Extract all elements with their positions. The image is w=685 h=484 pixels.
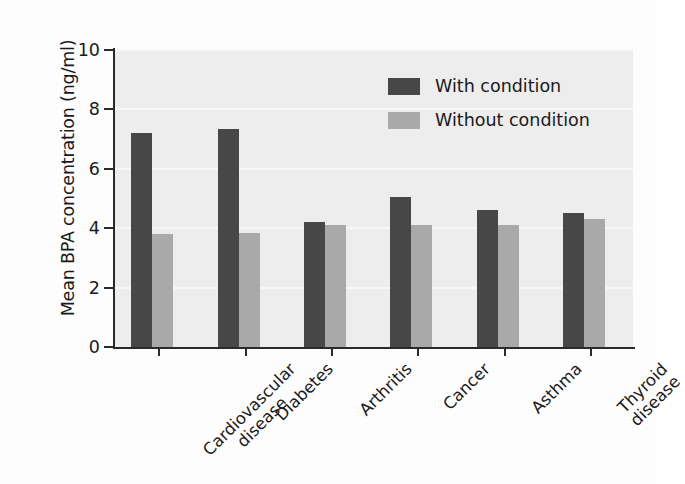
y-axis-tick-label: 10: [60, 40, 100, 60]
gridline: [115, 227, 633, 229]
bar: [325, 225, 346, 347]
x-axis-tick-label: Asthma: [528, 360, 586, 418]
x-axis-tick-label: Cardiovasculardisease: [200, 360, 313, 473]
legend-swatch-icon: [388, 112, 420, 129]
bar: [498, 225, 519, 347]
y-axis-tick-label: 4: [60, 218, 100, 238]
chart-legend: With conditionWithout condition: [388, 76, 590, 130]
legend-label: With condition: [435, 76, 561, 96]
y-axis-tick-label: 6: [60, 159, 100, 179]
x-axis-tick-mark: [504, 349, 506, 356]
x-axis-tick-mark: [245, 349, 247, 356]
x-axis-tick-label-line: Asthma: [527, 359, 585, 417]
y-axis-tick-label: 0: [60, 337, 100, 357]
x-axis-line: [113, 347, 635, 349]
bar: [390, 197, 411, 347]
bar: [584, 219, 605, 347]
y-axis-tick-mark: [104, 346, 114, 348]
bar: [218, 129, 239, 347]
y-axis-tick-label: 8: [60, 99, 100, 119]
legend-item: With condition: [388, 76, 590, 96]
bar: [411, 225, 432, 347]
y-axis-tick-mark: [104, 108, 114, 110]
y-axis-tick-mark: [104, 227, 114, 229]
y-axis-tick-mark: [104, 168, 114, 170]
x-axis-tick-label: Cancer: [440, 360, 494, 414]
bar: [477, 210, 498, 347]
x-axis-tick-mark: [158, 349, 160, 356]
y-axis-tick-mark: [104, 49, 114, 51]
legend-swatch-icon: [388, 78, 420, 95]
bar: [131, 133, 152, 347]
y-axis-tick-labels: 0246810: [56, 0, 100, 484]
gridline: [115, 168, 633, 170]
x-axis-tick-label: Arthritis: [356, 360, 416, 420]
x-axis-tick-mark: [590, 349, 592, 356]
x-axis-tick-mark: [331, 349, 333, 356]
x-axis-tick-mark: [417, 349, 419, 356]
bar: [563, 213, 584, 347]
legend-item: Without condition: [388, 110, 590, 130]
x-axis-tick-label-line: Arthritis: [355, 359, 415, 419]
gridline: [115, 287, 633, 289]
x-axis-tick-label: Thyroiddisease: [614, 360, 684, 430]
y-axis-tick-mark: [104, 287, 114, 289]
x-axis-tick-label-line: Cancer: [439, 359, 494, 414]
gridline: [115, 49, 633, 51]
bar: [304, 222, 325, 347]
legend-label: Without condition: [435, 110, 590, 130]
y-axis-line: [113, 48, 115, 349]
bar: [152, 234, 173, 347]
bar: [239, 233, 260, 347]
y-axis-tick-label: 2: [60, 278, 100, 298]
